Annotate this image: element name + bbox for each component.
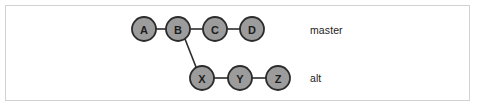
commit-graph: A B C D X Y Z <box>0 0 478 108</box>
commit-node-a[interactable]: A <box>132 17 156 41</box>
commit-node-z[interactable]: Z <box>266 66 290 90</box>
commit-node-c[interactable]: C <box>203 17 227 41</box>
commit-node-d[interactable]: D <box>240 17 264 41</box>
edge-b-x <box>185 39 196 67</box>
commit-node-x[interactable]: X <box>190 66 214 90</box>
figure-root: A B C D X Y Z <box>0 0 478 108</box>
commit-node-y[interactable]: Y <box>228 66 252 90</box>
node-group: A B C D X Y Z <box>132 17 290 90</box>
commit-label-x: X <box>198 73 206 85</box>
commit-node-b[interactable]: B <box>166 17 190 41</box>
commit-label-y: Y <box>236 73 244 85</box>
branch-label-master: master <box>310 24 343 36</box>
commit-label-d: D <box>248 24 256 36</box>
commit-label-c: C <box>211 24 219 36</box>
commit-label-b: B <box>174 24 182 36</box>
commit-label-z: Z <box>275 73 282 85</box>
commit-label-a: A <box>140 24 148 36</box>
branch-label-alt: alt <box>310 72 321 84</box>
